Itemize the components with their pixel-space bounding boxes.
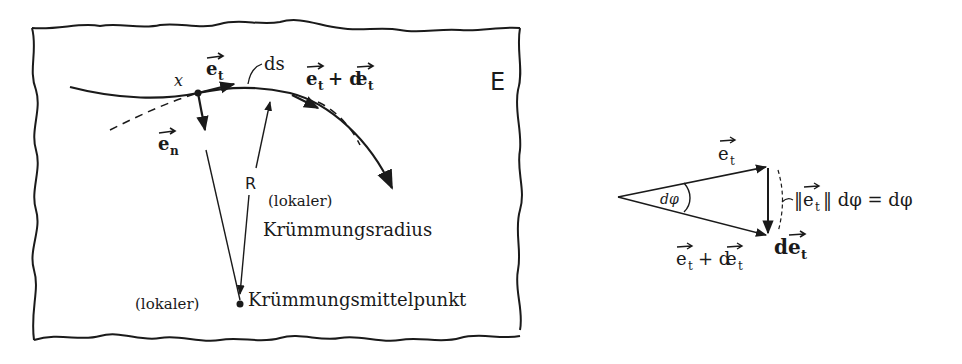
svg-text:d: d [774, 235, 788, 259]
svg-text:e: e [718, 143, 729, 164]
svg-text:t: t [318, 79, 324, 93]
svg-text:t: t [730, 154, 735, 168]
ds-leader [248, 64, 262, 84]
svg-text:t: t [815, 200, 820, 214]
svg-text:‖ dφ = dφ: ‖ dφ = dφ [823, 189, 913, 211]
next-tangent-label: e t + d e t [306, 63, 374, 93]
point-x-label: x [174, 71, 183, 90]
radius-desc-line1: (lokaler) [268, 192, 332, 210]
tangent-label: e t [206, 53, 224, 83]
svg-text:t: t [368, 79, 374, 93]
bottom-vector-label: e t + d e t [676, 243, 743, 273]
angle-label: dφ [660, 191, 679, 207]
normal-arrow [198, 93, 205, 130]
svg-text:t: t [218, 69, 224, 83]
svg-text:e: e [158, 133, 169, 154]
curve [70, 87, 392, 188]
svg-text:e: e [803, 189, 814, 210]
magnitude-leader [782, 199, 793, 202]
bottom-vector-arrow [618, 197, 766, 235]
svg-text:t: t [738, 259, 743, 273]
ds-label: ds [264, 53, 285, 74]
radius-desc-line2: Krümmungsradius [263, 219, 432, 240]
svg-text:t: t [688, 259, 693, 273]
angle-arc [684, 183, 690, 212]
magnitude-label: ‖ e t ‖ dφ = dφ [794, 183, 913, 214]
svg-text:e: e [788, 235, 801, 259]
difference-vector-label: d e t [774, 231, 807, 262]
svg-text:e: e [306, 68, 317, 89]
radius-arrow-down [240, 195, 249, 294]
top-vector-arrow [618, 167, 766, 197]
normal-line [206, 150, 240, 300]
svg-text:e: e [206, 58, 217, 79]
normal-label: e n [158, 128, 179, 158]
center-prefix: (lokaler) [135, 295, 199, 313]
svg-text:n: n [170, 144, 179, 158]
svg-text:e: e [676, 248, 687, 269]
svg-text:‖: ‖ [794, 189, 803, 211]
frame-label: E [490, 68, 505, 96]
center-label: Krümmungsmittelpunkt [248, 289, 467, 310]
radius-label: R [245, 174, 256, 193]
curvature-diagram: E x e t ds e t + d e t e n R (lokaler) K… [0, 0, 962, 364]
svg-text:t: t [801, 247, 807, 262]
svg-text:e: e [356, 68, 367, 89]
arc-length-dashed [778, 170, 783, 232]
top-vector-label: e t [718, 137, 735, 168]
svg-text:e: e [726, 248, 737, 269]
center-point [237, 301, 244, 308]
radius-arrow-up [256, 102, 270, 168]
